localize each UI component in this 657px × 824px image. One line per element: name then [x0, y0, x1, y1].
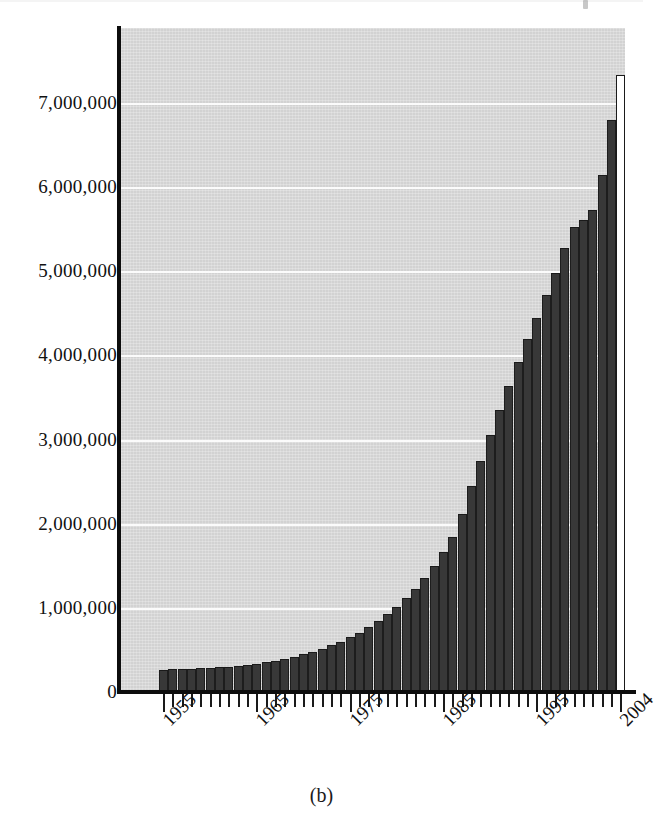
y-tick-label-1000000: 1,000,000 [6, 598, 117, 617]
bar-1984 [430, 566, 439, 692]
x-tick-1989 [480, 694, 482, 707]
x-tick-1964 [247, 694, 249, 707]
bar-1961 [215, 667, 224, 692]
x-tick-1984 [434, 694, 436, 707]
x-tick-1962 [228, 694, 230, 707]
y-axis-tick-labels: 01,000,0002,000,0003,000,0004,000,0005,0… [0, 0, 117, 824]
bar-1972 [318, 649, 327, 692]
bar-1955 [159, 670, 168, 692]
y-tick-label-0: 0 [6, 682, 117, 701]
x-tick-1960 [210, 694, 212, 707]
bar-1975 [346, 637, 355, 692]
x-tick-1983 [424, 694, 426, 707]
x-tick-1963 [238, 694, 240, 707]
x-tick-2001 [592, 694, 594, 707]
scan-artifact [583, 0, 588, 9]
bar-1992 [504, 386, 513, 692]
bar-1995 [532, 318, 541, 692]
bar-1979 [383, 614, 392, 692]
x-tick-1999 [574, 694, 576, 707]
x-tick-label-1975: 1975 [346, 689, 387, 730]
x-tick-1994 [527, 694, 529, 707]
bar-1981 [402, 598, 411, 692]
y-tick-label-6000000: 6,000,000 [6, 177, 117, 196]
x-tick-1982 [415, 694, 417, 707]
x-tick-1973 [331, 694, 333, 707]
x-tick-1974 [340, 694, 342, 707]
bar-1966 [262, 662, 271, 692]
figure-caption: (b) [0, 784, 643, 807]
x-tick-1980 [396, 694, 398, 707]
bar-1983 [420, 578, 429, 692]
bar-1973 [327, 645, 336, 692]
bar-1968 [280, 659, 289, 692]
x-tick-1981 [406, 694, 408, 707]
bar-1967 [271, 661, 280, 692]
bar-1982 [411, 589, 420, 692]
bar-1999 [570, 227, 579, 692]
gridline [121, 271, 625, 273]
bar-1974 [336, 642, 345, 692]
x-tick-1992 [508, 694, 510, 707]
x-tick-1991 [499, 694, 501, 707]
x-tick-1979 [387, 694, 389, 707]
y-tick-label-2000000: 2,000,000 [6, 514, 117, 533]
bar-1956 [168, 669, 177, 692]
bar-2004 [616, 75, 625, 692]
bar-1976 [355, 633, 364, 692]
bar-1971 [308, 652, 317, 692]
gridline [121, 187, 625, 189]
x-tick-1961 [219, 694, 221, 707]
y-tick-label-7000000: 7,000,000 [6, 93, 117, 112]
bar-1993 [514, 362, 523, 692]
bar-1986 [448, 537, 457, 692]
x-tick-1969 [294, 694, 296, 707]
bar-1958 [187, 669, 196, 692]
bar-1991 [495, 410, 504, 692]
bar-1990 [486, 435, 495, 692]
bar-1963 [234, 666, 243, 692]
x-tick-label-1985: 1985 [439, 689, 480, 730]
y-tick-label-5000000: 5,000,000 [6, 261, 117, 280]
x-tick-2003 [611, 694, 613, 707]
x-tick-2000 [583, 694, 585, 707]
x-tick-label-1995: 1995 [532, 689, 573, 730]
y-axis-spine [117, 26, 121, 694]
bar-1965 [252, 664, 261, 692]
plot-area [121, 28, 625, 692]
x-tick-1993 [518, 694, 520, 707]
bar-1962 [224, 667, 233, 692]
gridline [121, 103, 625, 105]
bar-1969 [290, 657, 299, 692]
y-tick-label-3000000: 3,000,000 [6, 430, 117, 449]
bar-1994 [523, 339, 532, 692]
x-tick-label-2004: 2004 [616, 689, 657, 730]
x-tick-1972 [322, 694, 324, 707]
x-tick-1959 [200, 694, 202, 707]
bar-1960 [206, 668, 215, 692]
bar-1977 [364, 627, 373, 692]
bar-2003 [607, 120, 616, 692]
bar-2002 [598, 175, 607, 692]
bar-1964 [243, 665, 252, 692]
bar-1998 [560, 248, 569, 692]
x-tick-2002 [602, 694, 604, 707]
y-tick-label-4000000: 4,000,000 [6, 345, 117, 364]
bar-1987 [458, 514, 467, 692]
bar-1959 [196, 668, 205, 692]
x-tick-1990 [490, 694, 492, 707]
bar-2000 [579, 220, 588, 692]
bar-1996 [542, 295, 551, 692]
bar-1988 [467, 486, 476, 692]
bar-1989 [476, 461, 485, 692]
x-tick-1970 [303, 694, 305, 707]
bar-1985 [439, 552, 448, 692]
bar-2001 [588, 210, 597, 692]
bar-1980 [392, 607, 401, 692]
x-tick-1971 [312, 694, 314, 707]
bar-1997 [551, 273, 560, 692]
bar-1970 [299, 654, 308, 692]
x-tick-label-1965: 1965 [252, 689, 293, 730]
x-tick-label-1955: 1955 [159, 689, 200, 730]
